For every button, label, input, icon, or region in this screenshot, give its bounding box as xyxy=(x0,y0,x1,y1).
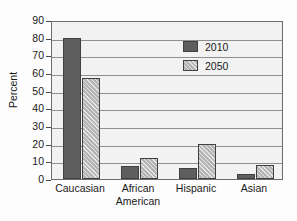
y-axis-tick-label: 0 xyxy=(38,173,44,185)
bar-2050-asian[interactable] xyxy=(256,165,274,179)
y-axis-tick-label: 80 xyxy=(32,32,44,44)
y-axis-tick-label: 40 xyxy=(32,102,44,114)
x-axis-label-asian: Asian xyxy=(225,182,283,195)
bar-2050-african-american[interactable] xyxy=(140,158,158,179)
y-axis-tick-label: 30 xyxy=(32,120,44,132)
y-axis-tick-label: 20 xyxy=(32,138,44,150)
x-axis-label-line: African xyxy=(122,182,155,194)
y-axis-tick-mark xyxy=(46,180,51,181)
legend-item-2050[interactable]: 2050 xyxy=(183,57,255,74)
y-axis-tick-label: 10 xyxy=(32,155,44,167)
x-axis-label-african-american: AfricanAmerican xyxy=(109,182,167,207)
bar-chart-figure: Percent 9080706050403020100 20102050 Cau… xyxy=(0,0,297,221)
x-axis-label-line: Caucasian xyxy=(55,182,105,194)
bar-2010-asian[interactable] xyxy=(237,174,255,179)
legend-swatch-2050 xyxy=(183,60,198,71)
x-axis-label-hispanic: Hispanic xyxy=(167,182,225,195)
bar-2010-hispanic[interactable] xyxy=(179,168,197,179)
plot-area: 20102050 xyxy=(51,21,283,180)
chart-legend: 20102050 xyxy=(183,36,255,78)
y-axis-tick-label: 50 xyxy=(32,85,44,97)
x-axis-label-group: CaucasianAfricanAmericanHispanicAsian xyxy=(51,182,283,220)
x-axis-label-line: Hispanic xyxy=(176,182,216,194)
bar-2010-african-american[interactable] xyxy=(121,166,139,179)
legend-swatch-2010 xyxy=(183,41,198,52)
legend-label-2010: 2010 xyxy=(205,41,228,53)
legend-item-2010[interactable]: 2010 xyxy=(183,38,255,55)
bar-2050-hispanic[interactable] xyxy=(198,144,216,179)
bar-2010-caucasian[interactable] xyxy=(63,38,81,179)
x-axis-label-line: Asian xyxy=(241,182,267,194)
legend-label-2050: 2050 xyxy=(205,60,228,72)
y-axis-tick-label: 90 xyxy=(32,14,44,26)
y-axis-tick-label: 60 xyxy=(32,67,44,79)
bar-2050-caucasian[interactable] xyxy=(82,78,100,179)
y-axis-tick-label: 70 xyxy=(32,49,44,61)
y-axis-tick-group: 9080706050403020100 xyxy=(0,21,51,180)
x-axis-label-caucasian: Caucasian xyxy=(51,182,109,195)
x-axis-label-line: American xyxy=(109,195,167,208)
